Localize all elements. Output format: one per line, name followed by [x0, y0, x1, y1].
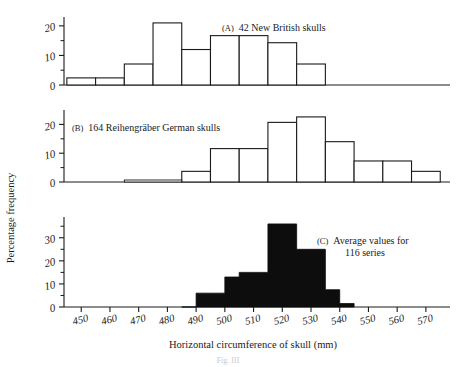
histogram-bar — [354, 161, 383, 182]
y-tick-label: 0 — [49, 176, 57, 189]
histogram-bar — [268, 43, 297, 85]
histogram-bar — [297, 117, 326, 182]
x-tick-label: 570 — [416, 312, 435, 327]
histogram-bar — [124, 180, 181, 182]
figure-caption: Fig. III — [217, 356, 240, 365]
x-tick-label: 460 — [100, 312, 119, 327]
histogram-bar — [297, 64, 326, 85]
panel-a-annotation: (A)42 New British skulls — [222, 22, 326, 33]
histogram-bar — [182, 50, 211, 85]
y-tick-label: 10 — [43, 278, 57, 292]
skull-circumference-histograms: 0102001020010203045046047048049050051052… — [0, 0, 457, 367]
panel-c: 0102030 — [42, 217, 450, 314]
x-tick-label: 450 — [71, 312, 90, 327]
histogram-bar — [268, 122, 297, 182]
histogram-bar — [239, 36, 268, 85]
x-tick-label: 550 — [359, 312, 378, 327]
x-tick-label: 510 — [244, 312, 263, 327]
histogram-bar — [96, 78, 125, 85]
histogram-bar — [210, 149, 239, 182]
panel-b-low-bins — [124, 180, 181, 182]
figure-container: 0102001020010203045046047048049050051052… — [0, 0, 457, 367]
x-axis-title: Horizontal circumference of skull (mm) — [169, 339, 337, 351]
panel-c-annotation-line2: 116 series — [345, 247, 385, 258]
y-tick-label: 30 — [42, 232, 57, 246]
x-axis: 450460470480490500510520530540550560570 — [71, 307, 434, 327]
panel-b-annotation: (B)164 Reihengräber German skulls — [72, 122, 220, 133]
x-tick-label: 490 — [186, 312, 205, 327]
y-tick-label: 0 — [49, 79, 57, 92]
y-tick-label: 20 — [43, 255, 57, 269]
histogram-bar — [239, 149, 268, 182]
histogram-bar — [124, 64, 153, 85]
x-tick-label: 540 — [330, 312, 349, 327]
histogram-bar — [182, 171, 211, 182]
histogram-bar — [210, 36, 239, 85]
x-tick-label: 530 — [301, 312, 320, 327]
histogram-bar — [383, 161, 412, 182]
x-tick-label: 480 — [158, 312, 177, 327]
panel-c-annotation: (C)Average values for — [317, 235, 409, 246]
x-tick-label: 560 — [387, 312, 406, 327]
x-tick-label: 470 — [129, 312, 148, 327]
y-axis-title: Percentage frequency — [5, 172, 16, 263]
y-tick-label: 0 — [49, 301, 57, 314]
x-tick-label: 520 — [272, 312, 291, 327]
x-tick-label: 500 — [215, 312, 234, 327]
y-tick-label: 10 — [43, 147, 57, 161]
y-tick-label: 10 — [43, 50, 57, 64]
histogram-bar — [67, 78, 96, 85]
y-tick-label: 20 — [43, 119, 57, 133]
histogram-bar — [412, 171, 441, 182]
histogram-bar — [153, 23, 182, 85]
histogram-bar — [325, 142, 354, 182]
y-tick-label: 20 — [43, 20, 57, 34]
